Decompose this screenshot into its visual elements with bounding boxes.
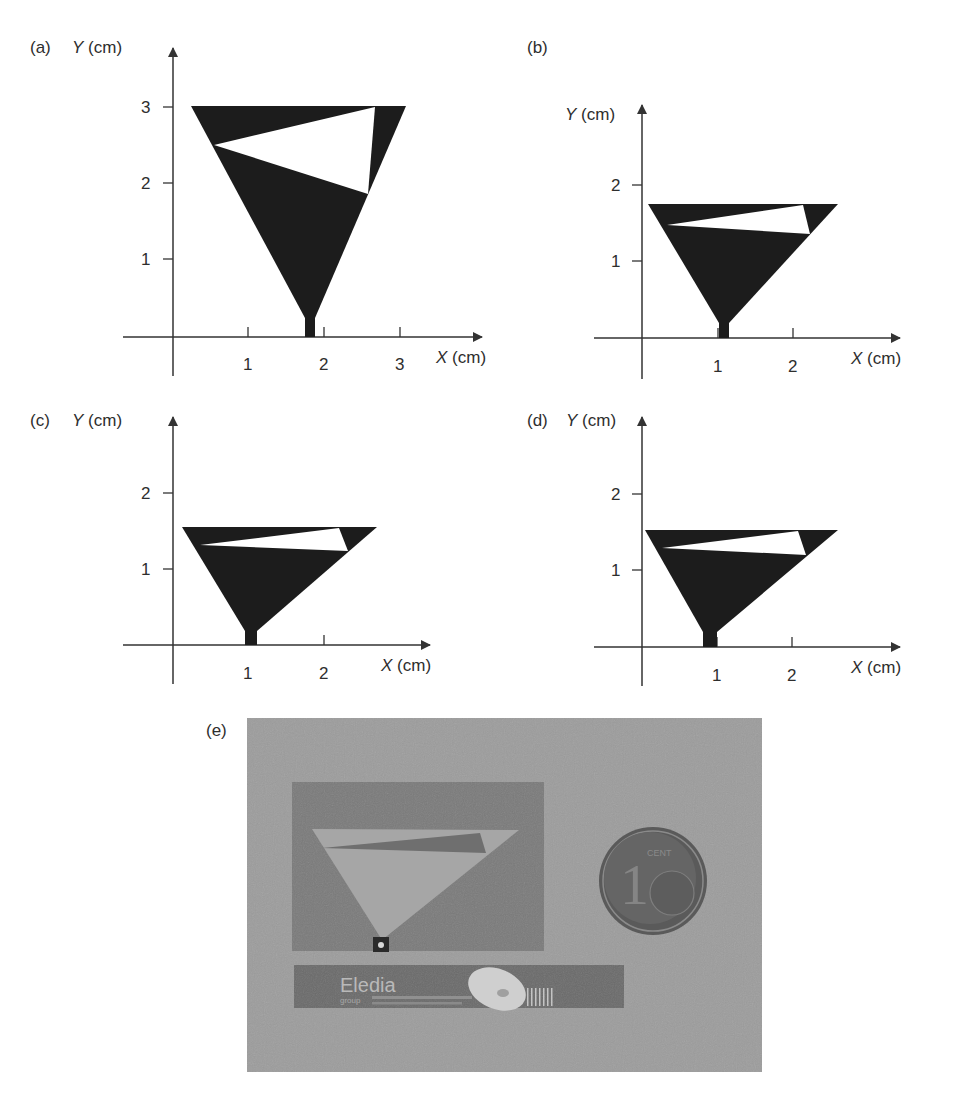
svg-text:2: 2 <box>319 355 328 374</box>
svg-text:1: 1 <box>620 852 649 917</box>
svg-text:2: 2 <box>787 666 796 685</box>
panel-c-tag: (c) <box>30 411 50 430</box>
svg-text:1: 1 <box>712 666 721 685</box>
svg-text:2: 2 <box>611 176 620 195</box>
panel-a-xlabel: X (cm) <box>435 348 486 367</box>
panel-d-x-ticks: 1 2 <box>712 637 796 685</box>
panel-d: (d) Y (cm) 1 2 1 2 X (cm) <box>527 411 901 686</box>
panel-e-tag: (e) <box>206 721 227 740</box>
svg-text:2: 2 <box>319 664 328 683</box>
svg-text:1: 1 <box>713 357 722 376</box>
panel-b-antenna <box>648 204 838 338</box>
svg-text:2: 2 <box>141 174 150 193</box>
panel-b-y-ticks: 1 2 <box>611 176 642 271</box>
svg-text:1: 1 <box>243 664 252 683</box>
panel-a-x-ticks: 1 2 3 <box>243 327 404 374</box>
panel-a-ylabel: Y (cm) <box>72 38 122 57</box>
svg-text:3: 3 <box>141 98 150 117</box>
svg-text:2: 2 <box>141 484 150 503</box>
panel-d-y-ticks: 1 2 <box>611 485 642 580</box>
panel-d-tag: (d) <box>527 411 548 430</box>
svg-text:group: group <box>340 996 361 1005</box>
svg-text:CENT: CENT <box>647 848 672 858</box>
panel-b-tag: (b) <box>527 38 548 57</box>
panel-c-antenna <box>182 527 377 645</box>
svg-text:3: 3 <box>395 355 404 374</box>
panel-a-antenna <box>191 106 406 337</box>
panel-c: (c) Y (cm) 1 2 1 2 X (cm) <box>30 411 431 684</box>
panel-b-ylabel: Y (cm) <box>565 105 615 124</box>
panel-c-xlabel: X (cm) <box>380 656 431 675</box>
svg-text:1: 1 <box>243 355 252 374</box>
antenna-board <box>292 782 544 952</box>
panel-b: (b) Y (cm) 1 2 1 2 X (cm) <box>527 38 901 379</box>
panel-c-y-ticks: 1 2 <box>141 484 173 579</box>
figure-canvas: (a) Y (cm) 1 2 3 1 2 3 X (cm) <box>0 0 960 1116</box>
panel-d-xlabel: X (cm) <box>850 658 901 677</box>
svg-text:1: 1 <box>611 252 620 271</box>
euro-cent-coin: 1 CENT <box>599 827 707 935</box>
svg-text:1: 1 <box>141 250 150 269</box>
panel-b-xlabel: X (cm) <box>850 349 901 368</box>
panel-a-y-ticks: 1 2 3 <box>141 98 173 269</box>
panel-a: (a) Y (cm) 1 2 3 1 2 3 X (cm) <box>30 38 486 376</box>
prototype-photo: 1 CENT Eledia group <box>247 718 762 1072</box>
panel-a-tag: (a) <box>30 38 51 57</box>
panel-c-ylabel: Y (cm) <box>72 411 122 430</box>
panel-d-antenna <box>645 530 838 647</box>
panel-d-ylabel: Y (cm) <box>566 411 616 430</box>
svg-text:1: 1 <box>611 561 620 580</box>
svg-text:2: 2 <box>611 485 620 504</box>
svg-text:Eledia: Eledia <box>340 974 396 996</box>
panel-e: (e) 1 CENT <box>206 718 762 1072</box>
svg-text:1: 1 <box>141 560 150 579</box>
svg-text:2: 2 <box>788 357 797 376</box>
